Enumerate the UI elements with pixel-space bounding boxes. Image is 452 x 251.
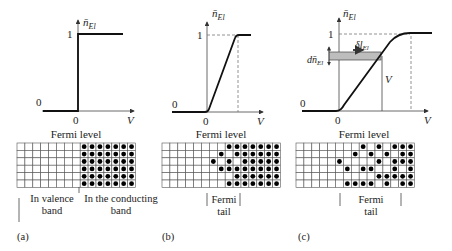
grid-cell bbox=[64, 158, 72, 165]
electron-dot bbox=[250, 159, 255, 164]
grid-cell bbox=[49, 143, 57, 150]
grid-cell bbox=[162, 158, 170, 165]
y-tick-1-c: 1 bbox=[328, 28, 334, 40]
x-zero-a: 0 bbox=[73, 114, 79, 126]
grid-cell bbox=[72, 150, 80, 157]
grid-cell bbox=[186, 173, 194, 180]
grid-cell bbox=[217, 180, 225, 187]
electron-dot bbox=[250, 144, 255, 149]
grid-cell bbox=[17, 165, 25, 172]
electron-dot bbox=[392, 159, 397, 164]
grid-cell bbox=[194, 173, 202, 180]
grid-cell bbox=[312, 143, 320, 150]
electron-dot bbox=[400, 174, 405, 179]
electron-dot bbox=[258, 181, 263, 186]
electron-dot bbox=[129, 144, 134, 149]
grid-cell bbox=[41, 173, 49, 180]
electron-dot bbox=[274, 152, 279, 157]
grid-cell bbox=[64, 143, 72, 150]
electron-dot bbox=[82, 174, 87, 179]
grid-cell bbox=[57, 158, 65, 165]
grid-cell bbox=[304, 150, 312, 157]
grid-cell bbox=[296, 165, 304, 172]
electron-dot bbox=[400, 159, 405, 164]
valence-label-1: In valence bbox=[30, 193, 74, 204]
grid-cell bbox=[320, 180, 328, 187]
electron-dot bbox=[266, 167, 271, 172]
electron-dot bbox=[121, 159, 126, 164]
electron-dot bbox=[235, 144, 240, 149]
grid-cell bbox=[49, 165, 57, 172]
grid-cell bbox=[296, 158, 304, 165]
y-tick-1-b: 1 bbox=[197, 29, 203, 41]
grid-cell bbox=[178, 180, 186, 187]
grid-cell bbox=[304, 180, 312, 187]
y-tick-1-a: 1 bbox=[67, 28, 73, 40]
grid-cell bbox=[41, 180, 49, 187]
y-axis-label-a: n̄El bbox=[83, 16, 96, 31]
fermi-tail-label-b-2: tail bbox=[217, 206, 230, 217]
electron-dot bbox=[235, 167, 240, 172]
electron-dot bbox=[258, 144, 263, 149]
electron-dot bbox=[105, 159, 110, 164]
grid-cell bbox=[328, 143, 336, 150]
electron-dot bbox=[105, 152, 110, 157]
grid-cell bbox=[33, 158, 41, 165]
electron-dot bbox=[90, 152, 95, 157]
grid-cell bbox=[72, 173, 80, 180]
grid-cell bbox=[328, 173, 336, 180]
grid-cell bbox=[336, 173, 344, 180]
electron-dot bbox=[243, 167, 248, 172]
electron-dot bbox=[337, 159, 342, 164]
grid-cell bbox=[296, 150, 304, 157]
grid-cell bbox=[25, 180, 33, 187]
electron-dot bbox=[250, 152, 255, 157]
electron-dot bbox=[258, 167, 263, 172]
grid-cell bbox=[162, 165, 170, 172]
electron-dot bbox=[227, 167, 232, 172]
grid-cell bbox=[72, 165, 80, 172]
grid-cell bbox=[351, 158, 359, 165]
grid-cell bbox=[359, 173, 367, 180]
electron-dot bbox=[113, 144, 118, 149]
grid-cell bbox=[202, 165, 210, 172]
grid-cell bbox=[162, 143, 170, 150]
electron-dot bbox=[408, 152, 413, 157]
grid-cell bbox=[351, 143, 359, 150]
grid-cell bbox=[170, 180, 178, 187]
grid-cell bbox=[57, 143, 65, 150]
fermi-level-title-c: Fermi level bbox=[339, 128, 389, 140]
grid-cell bbox=[186, 158, 194, 165]
electron-dot bbox=[235, 181, 240, 186]
grid-cell bbox=[383, 143, 391, 150]
grid-cell bbox=[41, 150, 49, 157]
grid-cell bbox=[194, 180, 202, 187]
y-zero-c: 0 bbox=[300, 97, 306, 109]
electron-dot bbox=[250, 174, 255, 179]
electron-dot bbox=[408, 181, 413, 186]
electron-dot bbox=[227, 159, 232, 164]
electron-dot bbox=[384, 152, 389, 157]
graph-c: n̄El 1 0 0 V δlEl dn̄El V bbox=[300, 7, 432, 126]
grid-cell bbox=[351, 165, 359, 172]
grid-cell bbox=[343, 158, 351, 165]
grid-cell bbox=[375, 150, 383, 157]
electron-dot bbox=[250, 181, 255, 186]
grid-cell bbox=[25, 150, 33, 157]
dn-label: dn̄El bbox=[307, 54, 323, 67]
electron-dot bbox=[113, 181, 118, 186]
grid-cell bbox=[217, 173, 225, 180]
electron-dot bbox=[105, 167, 110, 172]
conducting-label-2: band bbox=[111, 205, 132, 216]
grid-cell bbox=[351, 173, 359, 180]
grid-cell bbox=[64, 173, 72, 180]
electron-dot bbox=[211, 159, 216, 164]
electron-dot bbox=[82, 159, 87, 164]
electron-dot bbox=[400, 181, 405, 186]
electron-dot bbox=[266, 144, 271, 149]
grid-cell bbox=[304, 158, 312, 165]
grid-cell bbox=[49, 173, 57, 180]
grid-cell bbox=[209, 143, 217, 150]
grid-cell bbox=[162, 173, 170, 180]
grid-cell bbox=[33, 165, 41, 172]
